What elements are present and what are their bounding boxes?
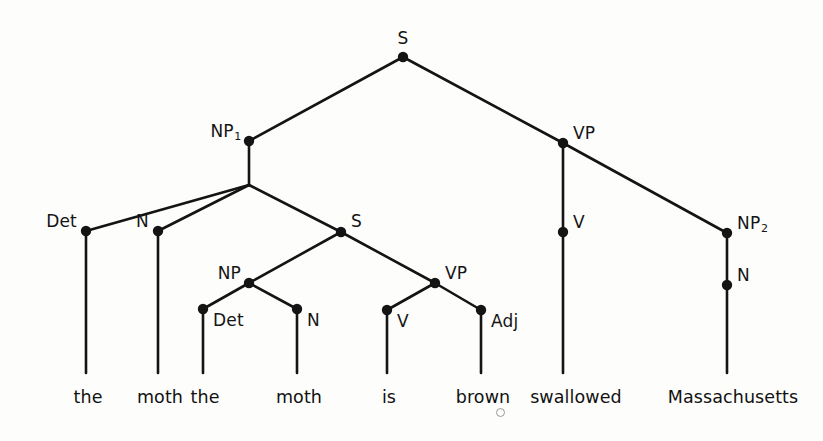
node-label-n-2: N (737, 267, 750, 284)
node-label-np1: NP1 (210, 123, 241, 140)
tree-node-dot-det-2 (198, 304, 208, 314)
tree-edge-vpembed-to-adj (435, 283, 481, 310)
node-label-text: Adj (491, 311, 518, 331)
leaf-word-leaf-moth-2: moth (276, 389, 322, 407)
node-label-text: V (573, 212, 585, 232)
tree-node-dot-vp-main (558, 138, 568, 148)
leaf-word-leaf-is: is (382, 389, 396, 407)
tree-edge-npembed-to-n3 (249, 283, 297, 309)
tree-edge-np1-to-det1 (86, 185, 249, 231)
tree-junction-np1-split (248, 184, 251, 187)
leaf-word-leaf-swallowed: swallowed (530, 389, 622, 407)
syntax-tree-graphic (0, 0, 823, 441)
tree-node-dot-det-1 (81, 226, 91, 236)
tree-node-dot-adj (476, 305, 486, 315)
node-label-text: NP (210, 121, 233, 141)
figure-canvas: SNP1VPDetNSVNP2NPVPNDetNVAdj themoththem… (0, 0, 823, 441)
node-label-subscript: 1 (234, 130, 241, 143)
tree-node-dot-v-main (558, 227, 568, 237)
node-label-text: V (397, 311, 409, 331)
node-label-text: N (307, 310, 320, 330)
node-label-n-3: N (307, 312, 320, 329)
leaf-word-leaf-the-2: the (190, 389, 219, 407)
node-label-v-embed: V (397, 313, 409, 330)
node-label-text: VP (445, 263, 467, 283)
tree-node-dot-n-2 (722, 280, 732, 290)
node-label-text: NP (737, 213, 760, 233)
node-label-text: N (136, 211, 149, 231)
tree-node-dot-vp-embed (430, 278, 440, 288)
node-label-text: Det (213, 310, 244, 330)
tree-node-dot-n-3 (292, 304, 302, 314)
node-label-s-embed: S (351, 213, 362, 230)
tree-node-dot-s-root (398, 52, 408, 62)
node-label-det-2: Det (213, 312, 244, 329)
tree-edge-root-to-vp (403, 57, 563, 143)
node-label-text: VP (573, 123, 595, 143)
tree-edge-root-to-np1 (249, 57, 403, 141)
tree-edge-vp-to-np2 (563, 143, 727, 233)
node-label-adj: Adj (491, 313, 518, 330)
scan-artifact-speck-below-brown (496, 408, 505, 417)
node-label-np-embed: NP (218, 265, 241, 282)
node-label-text: S (398, 28, 409, 48)
tree-edge-sembed-to-npembed (249, 232, 341, 283)
node-label-text: N (737, 265, 750, 285)
leaf-word-leaf-moth-1: moth (137, 389, 183, 407)
tree-node-dot-np-embed (244, 278, 254, 288)
tree-node-dot-np2 (722, 228, 732, 238)
leaf-word-leaf-brown: brown (456, 389, 511, 407)
tree-node-dot-np1 (244, 136, 254, 146)
node-label-text: NP (218, 263, 241, 283)
tree-node-dot-v-embed (382, 305, 392, 315)
node-label-s-root: S (398, 30, 409, 47)
node-label-vp-embed: VP (445, 265, 467, 282)
node-label-vp-main: VP (573, 125, 595, 142)
tree-edge-sembed-to-vpembed (341, 232, 435, 283)
leaf-word-leaf-the-1: the (73, 389, 102, 407)
node-label-v-main: V (573, 214, 585, 231)
leaf-word-leaf-massachusetts: Massachusetts (668, 389, 799, 407)
node-label-subscript: 2 (761, 222, 768, 235)
tree-edge-vpembed-to-vembed (387, 283, 435, 310)
tree-node-dot-n-1 (153, 226, 163, 236)
tree-edge-np1-to-sembed (249, 185, 341, 232)
tree-edge-npembed-to-det2 (203, 283, 249, 309)
node-label-det-1: Det (46, 213, 77, 230)
node-label-text: S (351, 211, 362, 231)
node-label-text: Det (46, 211, 77, 231)
node-label-n-1: N (136, 213, 149, 230)
node-label-np2: NP2 (737, 215, 768, 232)
tree-node-dot-s-embed (336, 227, 346, 237)
